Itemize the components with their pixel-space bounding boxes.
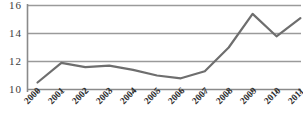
y-tick-label-1-4: 14 bbox=[0, 28, 22, 39]
gridlines bbox=[27, 6, 301, 62]
y-tick-label-1-2: 12 bbox=[0, 56, 22, 67]
data-series-line bbox=[38, 14, 301, 83]
chart-plot-area bbox=[0, 0, 303, 128]
y-tick-label-1-0: 10 bbox=[0, 84, 22, 95]
y-tick-label-1-6: 16 bbox=[0, 0, 22, 11]
line-chart: 16 14 12 10 2000 2001 2002 2003 2004 200… bbox=[0, 0, 303, 128]
